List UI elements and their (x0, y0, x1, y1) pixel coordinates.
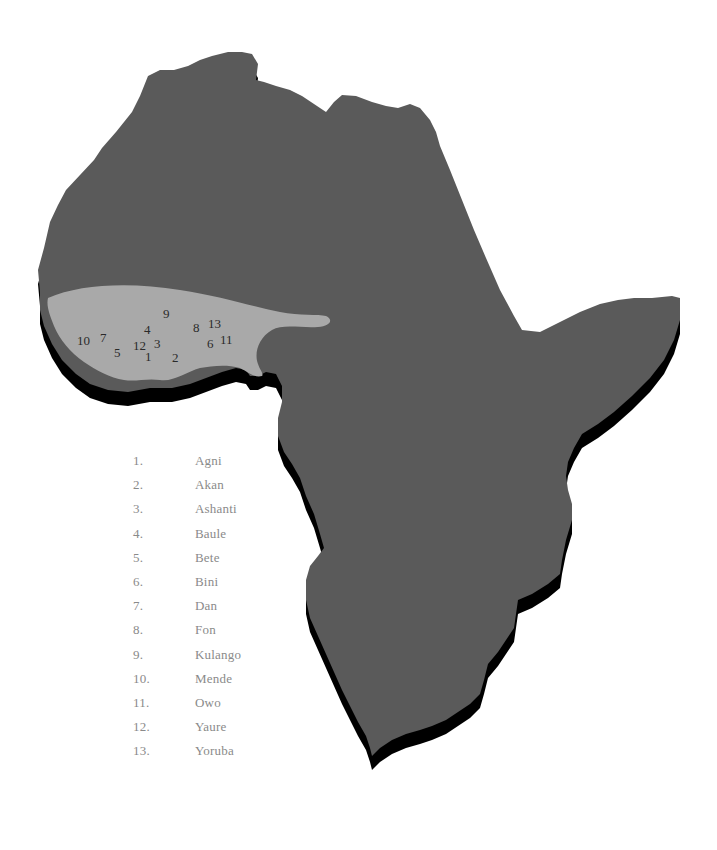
legend-item: 5. Bete (133, 546, 241, 570)
legend-number: 10. (133, 671, 195, 687)
legend-name: Agni (195, 453, 222, 469)
legend-number: 3. (133, 501, 195, 517)
legend-item: 4. Baule (133, 522, 241, 546)
legend-name: Baule (195, 526, 226, 542)
legend-number: 9. (133, 647, 195, 663)
legend-name: Bini (195, 574, 218, 590)
legend-number: 11. (133, 695, 195, 711)
legend: 1. Agni 2. Akan 3. Ashanti 4. Baule 5. B… (133, 449, 241, 763)
legend-name: Akan (195, 477, 224, 493)
legend-item: 7. Dan (133, 594, 241, 618)
legend-name: Fon (195, 622, 216, 638)
region-label-4: 4 (144, 322, 151, 337)
region-label-13: 13 (208, 316, 221, 331)
legend-item: 11. Owo (133, 691, 241, 715)
africa-map: 1 2 3 4 5 6 7 8 9 10 11 12 13 (0, 0, 717, 850)
legend-name: Yoruba (195, 743, 234, 759)
region-label-12: 12 (133, 338, 146, 353)
region-label-6: 6 (207, 336, 214, 351)
legend-item: 9. Kulango (133, 643, 241, 667)
region-label-5: 5 (114, 345, 121, 360)
legend-name: Mende (195, 671, 232, 687)
legend-number: 13. (133, 743, 195, 759)
legend-item: 6. Bini (133, 570, 241, 594)
legend-item: 10. Mende (133, 667, 241, 691)
legend-name: Yaure (195, 719, 226, 735)
legend-item: 3. Ashanti (133, 497, 241, 521)
legend-number: 2. (133, 477, 195, 493)
legend-name: Kulango (195, 647, 241, 663)
region-label-3: 3 (154, 336, 161, 351)
legend-name: Dan (195, 598, 217, 614)
region-label-8: 8 (193, 320, 200, 335)
legend-number: 5. (133, 550, 195, 566)
legend-number: 8. (133, 622, 195, 638)
legend-number: 4. (133, 526, 195, 542)
region-label-10: 10 (77, 333, 90, 348)
legend-name: Bete (195, 550, 220, 566)
legend-item: 12. Yaure (133, 715, 241, 739)
legend-item: 1. Agni (133, 449, 241, 473)
legend-item: 13. Yoruba (133, 739, 241, 763)
region-label-11: 11 (220, 332, 233, 347)
legend-name: Ashanti (195, 501, 237, 517)
legend-number: 6. (133, 574, 195, 590)
region-label-7: 7 (100, 330, 107, 345)
legend-number: 1. (133, 453, 195, 469)
region-label-9: 9 (163, 306, 170, 321)
legend-item: 8. Fon (133, 618, 241, 642)
legend-number: 12. (133, 719, 195, 735)
region-label-2: 2 (172, 350, 179, 365)
legend-name: Owo (195, 695, 221, 711)
legend-number: 7. (133, 598, 195, 614)
legend-item: 2. Akan (133, 473, 241, 497)
